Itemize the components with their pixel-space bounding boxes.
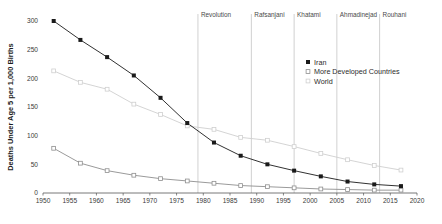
data-point	[346, 188, 350, 192]
line-chart: RevolutionRafsanjaniKhatamiAhmadinejadRo…	[0, 0, 442, 224]
data-point	[372, 188, 376, 192]
x-tick-label: 1960	[89, 197, 104, 204]
series-line-world	[54, 71, 401, 170]
x-axis-tick-group: 1950195519601965197019751980198519901995…	[36, 193, 425, 204]
y-axis-tick-group: 050100150200250300	[27, 17, 38, 196]
y-tick-label: 300	[27, 17, 38, 24]
y-tick-label: 200	[27, 75, 38, 82]
data-point	[266, 138, 270, 142]
event-label: Rafsanjani	[254, 11, 284, 19]
legend-label: More Developed Countries	[314, 67, 400, 76]
data-point	[265, 162, 269, 166]
data-point	[105, 87, 109, 91]
data-point	[159, 177, 163, 181]
data-point	[239, 184, 243, 188]
data-point	[52, 19, 56, 23]
x-tick-label: 1985	[223, 197, 238, 204]
legend-label: Iran	[314, 58, 326, 67]
x-tick-label: 1970	[143, 197, 158, 204]
data-point	[346, 180, 350, 184]
x-tick-label: 2005	[330, 197, 345, 204]
legend-marker	[306, 70, 310, 74]
chart-container: RevolutionRafsanjaniKhatamiAhmadinejadRo…	[0, 0, 442, 224]
data-point	[52, 146, 56, 150]
data-point	[346, 158, 350, 162]
data-point	[105, 169, 109, 173]
x-tick-label: 1990	[249, 197, 264, 204]
series-line-group	[54, 21, 401, 190]
data-point	[292, 186, 296, 190]
data-point	[79, 161, 83, 165]
event-label-group: RevolutionRafsanjaniKhatamiAhmadinejadRo…	[201, 11, 406, 19]
x-tick-label: 1980	[196, 197, 211, 204]
data-point	[79, 80, 83, 84]
event-line-group	[198, 14, 380, 193]
y-axis-title-text: Deaths Under Age 5 per 1,000 Births	[6, 43, 15, 170]
event-label: Khatami	[297, 11, 320, 18]
data-point	[212, 127, 216, 131]
data-point	[239, 154, 243, 158]
data-point	[319, 152, 323, 156]
x-tick-label: 1950	[36, 197, 51, 204]
data-point	[319, 174, 323, 178]
data-point	[372, 182, 376, 186]
y-tick-label: 100	[27, 132, 38, 139]
data-point	[266, 185, 270, 189]
series-marker-group	[52, 19, 403, 192]
data-point	[399, 168, 403, 172]
data-point	[372, 164, 376, 168]
event-label: Rouhani	[383, 11, 407, 18]
data-point	[399, 184, 403, 188]
data-point	[185, 179, 189, 183]
x-tick-label: 2015	[383, 197, 398, 204]
y-tick-label: 250	[27, 46, 38, 53]
data-point	[52, 69, 56, 73]
data-point	[132, 73, 136, 77]
y-tick-label: 50	[31, 161, 39, 168]
data-point	[212, 141, 216, 145]
event-label: Revolution	[201, 11, 232, 18]
data-point	[399, 188, 403, 192]
data-point	[132, 173, 136, 177]
data-point	[105, 55, 109, 59]
legend-marker	[306, 60, 310, 64]
event-label: Ahmadinejad	[340, 11, 378, 19]
chart-legend: IranMore Developed CountriesWorld	[306, 58, 400, 86]
x-tick-label: 1975	[169, 197, 184, 204]
x-tick-label: 2000	[303, 197, 318, 204]
legend-marker	[306, 79, 310, 83]
data-point	[292, 145, 296, 149]
y-tick-label: 0	[34, 189, 38, 196]
x-tick-label: 1965	[116, 197, 131, 204]
x-tick-label: 1955	[62, 197, 77, 204]
data-point	[185, 121, 189, 125]
data-point	[159, 96, 163, 100]
data-point	[319, 187, 323, 191]
data-point	[78, 38, 82, 42]
y-axis-label: Deaths Under Age 5 per 1,000 Births	[6, 43, 15, 170]
x-tick-label: 2010	[356, 197, 371, 204]
y-tick-label: 150	[27, 103, 38, 110]
data-point	[212, 181, 216, 185]
data-point	[239, 135, 243, 139]
x-tick-label: 2020	[410, 197, 425, 204]
legend-label: World	[314, 77, 333, 86]
x-tick-label: 1995	[276, 197, 291, 204]
data-point	[292, 169, 296, 173]
data-point	[132, 102, 136, 106]
data-point	[159, 113, 163, 117]
